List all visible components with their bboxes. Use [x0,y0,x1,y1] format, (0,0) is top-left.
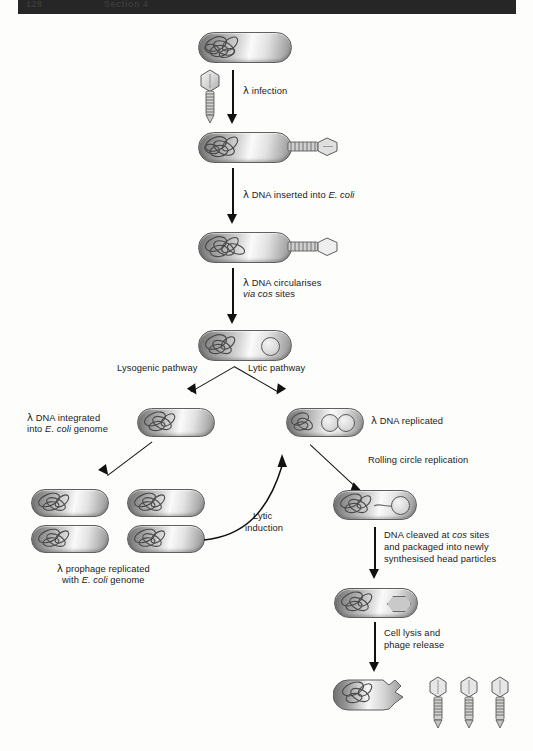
cell-lambda-replicated [286,408,364,437]
label-dna-cleaved-line1: DNA cleaved at cos sites [384,530,489,542]
chromosome-tangle-icon [202,35,258,60]
label-lysogenic-pathway: Lysogenic pathway [117,363,197,375]
label-dna-replicated: λ DNA replicated [371,415,443,428]
label-lytic-induction-line1: Lytic [253,511,272,523]
cell-phage-attached [198,132,292,163]
label-dna-integrated-line2: into E. coli genome [27,424,108,436]
page-number: 128 [26,0,43,11]
label-dna-inserted: λ DNA inserted into E. coli [243,189,354,202]
chromosome-tangle-icon [338,591,388,615]
lambda-circular-dna [261,337,280,356]
label-circularises-line2: via cos sites [243,289,295,301]
arrow-dna-inserted-head [227,214,237,224]
phage-particle-infecting [196,68,224,126]
phage-particle-released-3 [487,675,513,731]
lambda-rolling-circle-dna [391,496,410,515]
section-title: Section 4 [104,0,149,11]
cell-lysed [333,678,419,712]
cell-packaged-heads [334,588,418,618]
figure-page: 128 Section 4 [0,0,533,751]
label-dna-integrated-line1: λ DNA integrated [27,412,100,425]
arrow-cell-lysis [374,622,376,664]
cell-prophage-4 [127,525,205,553]
phage-particle-attached-1 [287,136,345,158]
lambda-circular-dna-copy-2 [337,414,355,432]
label-lambda-infection: λ infection [243,85,287,98]
arrow-prophage-replication [107,441,153,476]
arrow-cell-lysis-head [369,662,379,672]
chromosome-tangle-icon [202,135,258,160]
cell-circularised [198,330,292,361]
cell-prophage-3 [31,525,109,553]
chromosome-tangle-icon [290,411,324,434]
label-dna-cleaved-line3: synthesised head particles [384,554,496,566]
phage-particle-released-1 [425,675,451,731]
chromosome-tangle-icon [202,235,262,260]
arrow-dna-inserted [232,168,234,216]
cell-uninfected [198,32,292,63]
arrow-branch-lytic-head [272,383,286,397]
cell-prophage-1 [31,489,109,517]
page-header-bar: 128 Section 4 [18,0,516,14]
label-prophage-replicated-line1: λ prophage replicated [57,563,150,576]
arrow-dna-cleaved-head [369,569,379,579]
cell-prophage-2 [127,489,205,517]
phage-head-particle [387,596,411,612]
label-circularises-line1: λ DNA circularises [243,277,322,290]
label-lytic-pathway: Lytic pathway [248,363,305,375]
chromosome-tangle-icon [131,492,183,514]
label-cell-lysis-line1: Cell lysis and [384,628,440,640]
cell-dna-injected [198,232,292,263]
label-prophage-replicated-line2: with E. coli genome [62,575,145,587]
arrow-infection [232,70,234,116]
chromosome-tangle-icon [131,528,183,550]
label-cell-lysis-line2: phage release [384,640,444,652]
arrow-infection-head [227,114,237,124]
phage-particle-attached-2 [287,236,345,258]
chromosome-tangle-icon [35,528,87,550]
arrow-prophage-replication-head [98,464,112,478]
label-rolling-circle: Rolling circle replication [368,455,468,467]
chromosome-tangle-icon [141,411,193,434]
label-dna-cleaved-line2: and packaged into newly [384,542,489,554]
label-lytic-induction-line2: induction [245,523,283,535]
arrow-dna-cleaved [374,527,376,571]
cell-lambda-integrated [137,408,215,437]
phage-particle-released-2 [456,675,482,731]
cell-rolling-circle [333,490,417,520]
arrow-circularises [232,268,234,316]
arrow-circularises-head [227,314,237,324]
chromosome-tangle-icon [35,492,87,514]
chromosome-tangle-icon [202,333,252,358]
